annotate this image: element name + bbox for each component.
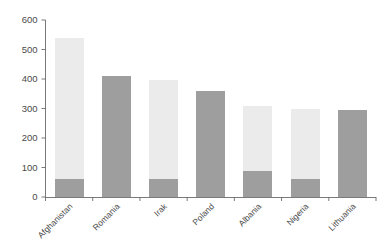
x-tick-label: Afghanistan (36, 201, 75, 240)
bar-segment (243, 171, 272, 197)
bar-segment (55, 38, 84, 180)
bar-group (149, 80, 178, 197)
x-tick-labels: AfghanistanRomaniaIrakPolandAlbaniaNiger… (36, 201, 358, 240)
x-tick-label: Nigeria (284, 201, 310, 227)
bar-segment (149, 179, 178, 197)
bar-group (243, 106, 272, 197)
bar-segment (291, 109, 320, 180)
y-tick-label: 600 (22, 14, 38, 25)
y-tick-group: 0100200300400500600 (22, 14, 46, 202)
chart-canvas: 0100200300400500600 AfghanistanRomaniaIr… (0, 0, 389, 252)
bar-segment (196, 91, 225, 197)
x-tick-label: Lithuania (326, 201, 358, 233)
bar-segment (291, 179, 320, 197)
bar-chart: 0100200300400500600 AfghanistanRomaniaIr… (0, 0, 389, 252)
bar-segment (102, 76, 131, 197)
x-tick-label: Albania (236, 201, 263, 228)
y-tick-label: 300 (22, 103, 38, 114)
x-tick-label: Romania (91, 201, 122, 232)
y-tick-label: 400 (22, 73, 38, 84)
bar-group (338, 110, 367, 197)
bar-group (55, 38, 84, 197)
bar-segment (149, 80, 178, 180)
y-tick-label: 0 (32, 191, 37, 202)
y-tick-label: 200 (22, 132, 38, 143)
x-tick-label: Irak (152, 201, 170, 219)
bar-group (102, 76, 131, 197)
bar-segment (338, 110, 367, 197)
bar-segment (243, 106, 272, 171)
y-tick-label: 100 (22, 162, 38, 173)
bar-segment (55, 179, 84, 197)
y-tick-label: 500 (22, 44, 38, 55)
bar-group (196, 91, 225, 197)
bars-layer (55, 38, 367, 197)
bar-group (291, 109, 320, 198)
x-tick-label: Poland (190, 201, 216, 227)
